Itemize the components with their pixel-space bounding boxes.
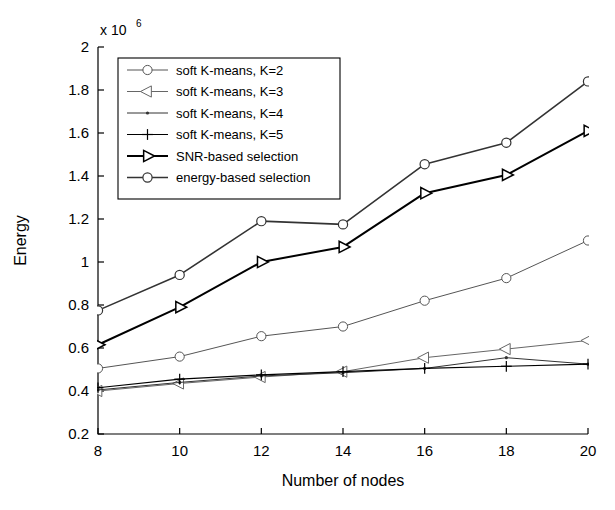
series-line [98,241,588,369]
series-1 [93,236,592,373]
y-tick-label: 0.8 [68,296,89,313]
y-tick-label: 1.2 [68,210,89,227]
marker-circle [257,332,266,341]
x-tick-label: 18 [498,442,515,459]
marker-triangle-left [499,343,510,354]
marker-triangle-right [584,125,595,136]
marker-triangle-right [421,188,432,199]
legend-label: soft K-means, K=2 [176,63,283,78]
marker-circle [338,220,347,229]
marker-circle [502,274,511,283]
y-tick-label: 0.4 [68,382,89,399]
legend-item-2: soft K-means, K=3 [127,84,283,99]
marker-circle [143,173,152,182]
marker-dot [146,111,149,114]
legend-label: energy-based selection [176,170,310,185]
marker-circle [502,138,511,147]
x-axis-title: Number of nodes [282,472,405,489]
legend-label: soft K-means, K=3 [176,84,283,99]
y-tick-label: 0.2 [68,425,89,442]
exponent-power: 6 [136,18,142,29]
energy-vs-nodes-chart: 0.20.40.60.811.21.41.61.828101214161820x… [0,0,615,510]
legend-label: SNR-based selection [176,149,298,164]
marker-circle [583,77,592,86]
y-axis-title: Energy [12,215,29,266]
marker-circle [93,306,102,315]
y-axis-exponent-label: x 106 [100,18,142,38]
marker-circle [420,160,429,169]
marker-circle [175,352,184,361]
marker-circle [257,217,266,226]
marker-triangle-right [257,256,268,267]
y-tick-label: 1 [81,253,89,270]
legend-label: soft K-means, K=4 [176,106,283,121]
x-tick-label: 10 [171,442,188,459]
x-tick-label: 16 [416,442,433,459]
x-tick-label: 20 [580,442,597,459]
y-tick-label: 1.4 [68,167,89,184]
x-tick-label: 8 [94,442,102,459]
legend-label: soft K-means, K=5 [176,127,283,142]
marker-triangle-left [254,371,265,382]
y-tick-label: 0.6 [68,339,89,356]
marker-triangle-left [418,352,429,363]
marker-circle [420,296,429,305]
marker-circle [93,364,102,373]
legend: soft K-means, K=2soft K-means, K=3soft K… [118,58,340,199]
marker-circle [338,322,347,331]
y-tick-label: 1.8 [68,81,89,98]
marker-circle [583,236,592,245]
y-tick-label: 2 [81,38,89,55]
marker-circle [175,270,184,279]
exponent-base: x 10 [100,22,127,38]
marker-dot [505,356,508,359]
marker-circle [143,65,152,74]
chart-canvas: 0.20.40.60.811.21.41.61.828101214161820x… [0,0,615,510]
x-tick-label: 12 [253,442,270,459]
series-4 [93,359,594,393]
marker-triangle-left [581,335,592,346]
x-tick-label: 14 [335,442,352,459]
y-tick-label: 1.6 [68,124,89,141]
marker-triangle-right [94,339,105,350]
